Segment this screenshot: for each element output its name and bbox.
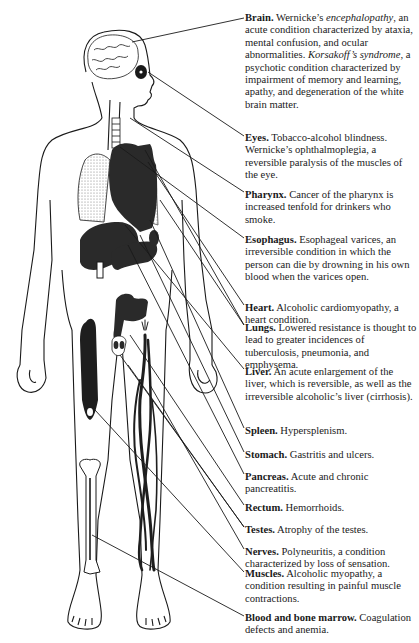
label-testes: Testes. Atrophy of the testes. — [245, 524, 417, 536]
bone-icon — [80, 459, 101, 574]
label-pancreas-title: Pancreas. — [245, 471, 289, 482]
spleen-icon — [149, 230, 159, 246]
muscle-icon — [80, 319, 98, 420]
label-eyes-title: Eyes. — [245, 132, 269, 143]
testes-icon — [112, 336, 126, 356]
label-lungs-title: Lungs. — [245, 322, 276, 333]
label-muscles-title: Muscles. — [245, 568, 284, 579]
label-esophagus: Esophagus. Esophageal varices, an irreve… — [245, 234, 417, 284]
label-brain-title: Brain. — [245, 12, 274, 23]
label-blood-and-bone-marrow: Blood and bone marrow. Coagulation defec… — [245, 612, 417, 637]
label-nerves-title: Nerves. — [245, 546, 279, 557]
label-spleen-title: Spleen. — [245, 425, 278, 436]
label-stomach-title: Stomach. — [245, 449, 287, 460]
label-testes-title: Testes. — [245, 524, 275, 535]
left-hand — [17, 360, 46, 392]
label-pharynx: Pharynx. Cancer of the pharynx is increa… — [245, 189, 417, 226]
label-pharynx-title: Pharynx. — [245, 189, 287, 200]
label-pancreas: Pancreas. Acute and chronic pancreatitis… — [245, 471, 417, 496]
label-muscles: Muscles. Alcoholic myopathy, a condition… — [245, 568, 417, 605]
label-heart-title: Heart. — [245, 302, 274, 313]
label-liver: Liver. An acute enlargement of the liver… — [245, 366, 417, 403]
label-lungs: Lungs. Lowered resistance is thought to … — [245, 322, 417, 372]
label-eyes: Eyes. Tobacco-alcohol blindness. Wernick… — [245, 132, 417, 182]
label-esophagus-title: Esophagus. — [245, 234, 297, 245]
rectum-icon — [97, 262, 103, 278]
lungs-icon — [78, 154, 110, 222]
label-rectum-title: Rectum. — [245, 502, 283, 513]
label-liver-title: Liver. — [245, 366, 271, 377]
label-brain: Brain. Wernicke’s encephalopathy, an acu… — [245, 12, 417, 111]
trachea — [112, 118, 120, 148]
brain-icon — [88, 35, 139, 79]
label-spleen: Spleen. Hypersplenism. — [245, 425, 417, 437]
label-stomach: Stomach. Gastritis and ulcers. — [245, 449, 417, 461]
label-rectum: Rectum. Hemorrhoids. — [245, 502, 417, 514]
label-blood-title: Blood and bone marrow. — [245, 612, 357, 623]
